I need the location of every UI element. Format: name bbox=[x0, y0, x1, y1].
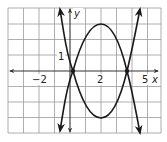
y-axis-label: y bbox=[73, 8, 81, 19]
graph: −2 2 5 x 1 y bbox=[0, 0, 167, 142]
x-tick-label-2: 2 bbox=[97, 74, 103, 85]
intersection-point-x4 bbox=[125, 69, 129, 73]
y-tick-label-1: 1 bbox=[58, 51, 64, 62]
x-axis-label: x bbox=[151, 74, 158, 85]
x-tick-label-5: 5 bbox=[142, 74, 148, 85]
intersection-point-origin bbox=[71, 69, 75, 73]
x-tick-label-neg2: −2 bbox=[32, 74, 47, 85]
